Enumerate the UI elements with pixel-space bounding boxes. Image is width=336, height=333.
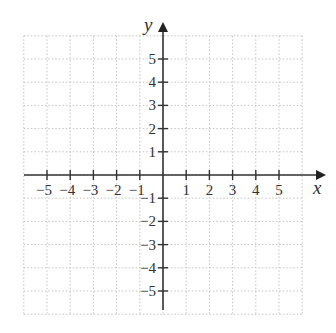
y-axis-arrow-icon [158,22,168,32]
y-tick-label: 1 [149,144,157,160]
x-axis-label: x [312,177,322,198]
x-tick-label: 5 [275,182,283,198]
y-tick-label: −3 [140,237,156,253]
x-tick-label: 1 [182,182,190,198]
x-tick-label: 4 [252,182,260,198]
y-tick-label: 5 [149,51,157,67]
y-tick-label: −5 [140,283,156,299]
y-axis-label: y [142,14,153,35]
y-tick-label: −4 [140,260,156,276]
x-tick-label: −3 [82,182,98,198]
y-tick-label: 3 [149,97,157,113]
x-tick-label: 3 [229,182,237,198]
coordinate-plane: −5−4−3−2−11234554321−1−2−3−4−5 x y [0,0,336,333]
y-tick-label: −1 [140,190,156,206]
x-tick-label: −2 [106,182,122,198]
y-tick-label: −2 [140,213,156,229]
y-tick-label: 4 [149,74,157,90]
y-tick-label: 2 [149,121,157,137]
x-tick-label: 2 [206,182,214,198]
x-tick-label: −5 [36,182,52,198]
x-tick-label: −4 [59,182,75,198]
